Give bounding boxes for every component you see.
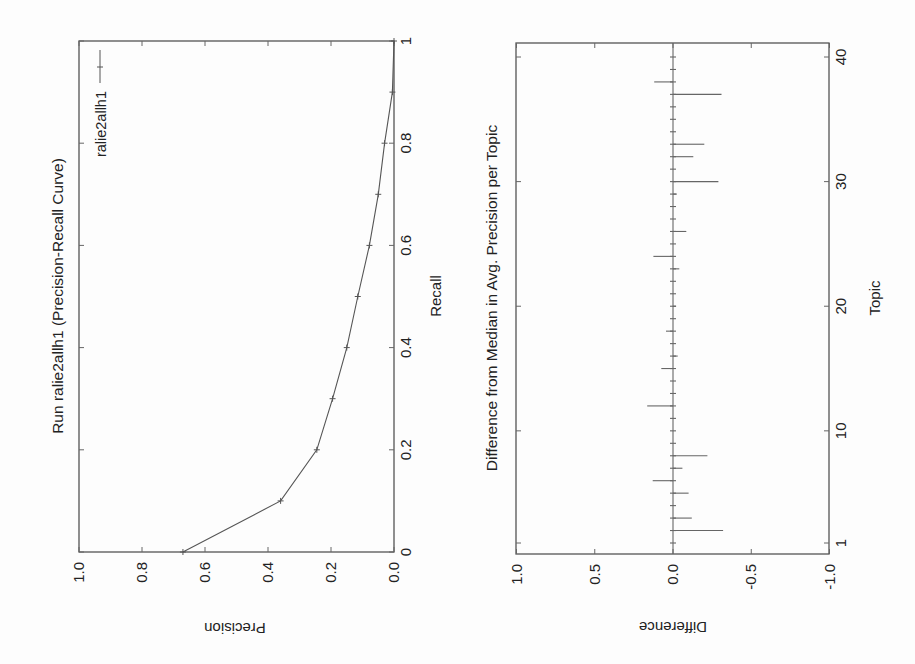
pr-curve-markers — [180, 38, 397, 555]
charts-canvas: 00.20.40.60.810.00.20.40.60.81.0 Run ral… — [0, 0, 915, 664]
precision-tick-label: 0.8 — [133, 562, 150, 583]
topic-tick-label: 20 — [832, 298, 849, 315]
topic-tick-label: 1 — [832, 539, 849, 547]
diff-tick-labels: 1102030401.00.50.0-0.5-1.0 — [508, 49, 850, 590]
rotated-report-page: 00.20.40.60.810.00.20.40.60.81.0 Run ral… — [0, 0, 915, 664]
diff-bars — [647, 57, 723, 543]
pr-legend: ralie2allh1 — [93, 50, 109, 157]
recall-tick-label: 0.4 — [397, 337, 414, 358]
recall-tick-label: 0.2 — [397, 439, 414, 460]
pr-tick-labels: 00.20.40.60.810.00.20.40.60.81.0 — [70, 37, 414, 583]
pr-chart-title: Run ralie2allh1 (Precision-Recall Curve) — [49, 158, 66, 434]
difference-tick-label: -1.0 — [821, 564, 838, 590]
difference-tick-label: -0.5 — [742, 564, 759, 590]
precision-tick-label: 0.2 — [322, 562, 339, 583]
pr-xlabel-recall: Recall — [427, 275, 444, 317]
difference-tick-label: 0.0 — [664, 564, 681, 585]
precision-tick-label: 1.0 — [70, 562, 87, 583]
difference-per-topic-chart: 1102030401.00.50.0-0.5-1.0 Difference fr… — [483, 43, 883, 636]
precision-recall-chart: 00.20.40.60.810.00.20.40.60.81.0 Run ral… — [49, 37, 444, 637]
recall-tick-label: 1 — [397, 37, 414, 45]
precision-tick-label: 0.6 — [196, 562, 213, 583]
pr-axis-ticks — [79, 41, 394, 552]
difference-tick-label: 0.5 — [586, 564, 603, 585]
pr-legend-label: ralie2allh1 — [93, 91, 109, 157]
precision-tick-label: 0.0 — [385, 562, 402, 583]
topic-tick-label: 40 — [832, 49, 849, 66]
topic-tick-label: 30 — [832, 173, 849, 190]
recall-tick-label: 0.6 — [397, 235, 414, 256]
precision-tick-label: 0.4 — [259, 562, 276, 583]
recall-tick-label: 0 — [397, 548, 414, 556]
pr-ylabel-precision: Precision — [204, 620, 266, 637]
diff-chart-title: Difference from Median in Avg. Precision… — [483, 125, 500, 472]
recall-tick-label: 0.8 — [397, 133, 414, 154]
pr-plot-frame — [79, 41, 394, 552]
pr-curve-line — [183, 41, 394, 552]
diff-xlabel-topic: Topic — [866, 280, 883, 316]
diff-ylabel-difference: Difference — [639, 619, 707, 636]
difference-tick-label: 1.0 — [508, 564, 525, 585]
topic-tick-label: 10 — [832, 423, 849, 440]
